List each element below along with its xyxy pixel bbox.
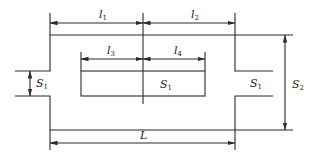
label-l1: l1: [99, 9, 107, 22]
label-S1-left: S1: [36, 78, 48, 91]
label-S1-center: S1: [160, 79, 172, 92]
label-S2: S2: [292, 79, 304, 92]
label-l3: l3: [107, 45, 115, 58]
label-l2: l2: [191, 9, 199, 22]
chamber-outline: [15, 35, 273, 130]
label-S1-right: S1: [250, 78, 262, 91]
label-L: L: [140, 130, 147, 143]
label-l4: l4: [174, 45, 182, 58]
